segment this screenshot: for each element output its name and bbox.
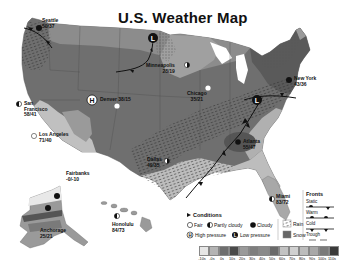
city-temps: 84/73 [112,228,134,234]
city-temps: 35/21 [187,97,207,103]
city-temps: 49/35 [147,163,162,169]
city-minneapolis: Minneapolis28/19 [146,63,175,74]
scale-label: 10s [227,257,237,261]
city-new-york: New York43/36 [294,76,316,87]
scale-swatch [239,246,249,256]
front-warm-label: Warm [306,210,318,215]
legend-low-pressure: Low pressure [240,232,270,238]
front-trough-label: Trough [306,232,320,237]
city-temps: 55/47 [243,145,260,151]
city-temps: 83/72 [276,200,290,206]
scale-swatch [309,246,319,256]
legend-fair: Fair [194,222,203,228]
high-pressure-denver: H [87,95,97,105]
city-temps: 43/36 [294,82,316,88]
scale-swatch [319,246,329,256]
low-pressure-minnesota: L [148,33,158,43]
scale-label: 100s [317,257,327,261]
city-temps: 25/21 [40,234,66,240]
svg-text:L: L [234,233,237,238]
scale-label: 60s [277,257,287,261]
legend-rain: Rain [293,221,303,227]
scale-swatch [219,246,229,256]
scale-label: 40s [257,257,267,261]
temperature-scale [199,246,339,256]
city-temps: 28/19 [146,69,175,75]
scale-swatch [229,246,239,256]
city-chicago: Chicago35/21 [187,91,207,102]
mainland-us [22,18,310,220]
city-temps: 38/15 [118,96,131,102]
city-denver: Denver 38/15 [100,97,131,103]
legend-high-pressure: High pressure [195,232,226,238]
scale-label: -10s [197,257,207,261]
conditions-title: Conditions [193,212,222,218]
city-atlanta: Atlanta55/47 [243,139,260,150]
scale-label: 0s [217,257,227,261]
scale-swatch [199,246,209,256]
scale-swatch [259,246,269,256]
svg-text:L: L [151,35,156,42]
scale-label: 20s [237,257,247,261]
scale-swatch [289,246,299,256]
scale-label: 70s [287,257,297,261]
legend-partly-cloudy: Partly cloudy [214,222,243,228]
city-fairbanks: Fairbanks-0/-10 [66,171,90,182]
fronts-title: Fronts [306,191,323,197]
scale-swatch [269,246,279,256]
scale-label: 50s [267,257,277,261]
svg-text:L: L [255,97,260,104]
scale-label: 30s [247,257,257,261]
front-cold-label: Cold [306,221,315,226]
legend-snow: Snow [293,232,306,238]
scale-label: 80s [297,257,307,261]
city-los-angeles: Los Angeles71/40 [39,132,69,143]
scale-swatch [329,246,339,256]
scale-label: 90s [307,257,317,261]
low-pressure-east: L [252,95,262,105]
scale-swatch [209,246,219,256]
scale-swatch [249,246,259,256]
scale-swatch [279,246,289,256]
city-anchorage: Anchorage25/21 [40,228,66,239]
city-temps: 50/37 [42,24,58,30]
svg-text:H: H [89,97,94,104]
city-seattle: Seattle50/37 [42,18,58,29]
svg-text:H: H [188,233,191,238]
city-name: Denver [100,96,117,102]
city-san-francisco: SanFrancisco58/41 [24,101,48,118]
city-temps: 58/41 [24,112,48,118]
temperature-scale-labels: -10s-0s0s10s20s30s40s50s60s70s80s90s100s… [197,257,337,261]
scale-label: -0s [207,257,217,261]
city-temps: -0/-10 [66,177,90,183]
city-miami: Miami83/72 [276,194,290,205]
legend-cloudy: Cloudy [257,222,273,228]
scale-swatch [299,246,309,256]
city-temps: 71/40 [39,138,69,144]
city-dallas: Dallas49/35 [147,157,162,168]
scale-label: 110s [327,257,337,261]
city-honolulu: Honolulu84/73 [112,222,134,233]
front-static-label: Static [306,199,317,204]
